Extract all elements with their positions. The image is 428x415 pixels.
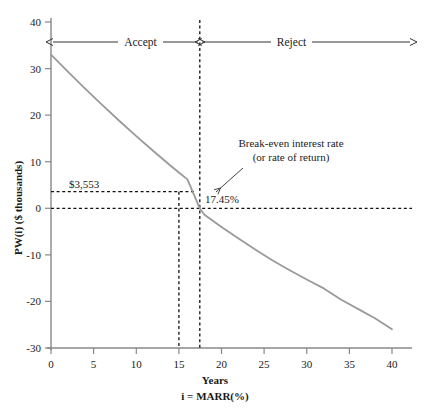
y-tick-label: 30: [30, 63, 42, 75]
x-tick-label: 10: [131, 358, 143, 370]
y-tick-label: 40: [30, 16, 42, 28]
x-tick-label: 40: [387, 358, 399, 370]
x-axis-title-years: Years: [202, 374, 229, 386]
break-even-value-annotation: 17.45%: [205, 193, 239, 205]
y-tick-label: -10: [26, 249, 41, 261]
y-axis-title: PW(i) ($ thousands): [12, 161, 25, 255]
pw-vs-marr-chart: 40 30 20 10 0 -10 -20 -30 0 5 10 15 20 2…: [0, 0, 428, 415]
x-tick-label: 0: [48, 358, 54, 370]
chart-container: 40 30 20 10 0 -10 -20 -30 0 5 10 15 20 2…: [0, 0, 428, 415]
y-tick-label: -30: [26, 342, 41, 354]
x-tick-label: 35: [344, 358, 356, 370]
x-tick-label: 15: [173, 358, 185, 370]
x-tick-label: 30: [301, 358, 313, 370]
accept-region-label: Accept: [124, 36, 157, 49]
x-tick-label: 20: [216, 358, 228, 370]
reject-region-label: Reject: [277, 36, 307, 49]
y-tick-label: 10: [30, 156, 42, 168]
chart-background: [0, 0, 428, 415]
y-tick-label: -20: [26, 295, 41, 307]
break-even-callout-line1: Break-even interest rate: [238, 137, 343, 149]
pw-value-annotation: $3,553: [69, 178, 100, 190]
x-axis-title-marr: i = MARR(%): [181, 390, 249, 403]
x-tick-label: 25: [259, 358, 271, 370]
x-tick-label: 5: [91, 358, 97, 370]
y-tick-label: 20: [30, 109, 42, 121]
y-tick-label: 0: [36, 202, 42, 214]
break-even-callout-line2: (or rate of return): [253, 151, 330, 164]
